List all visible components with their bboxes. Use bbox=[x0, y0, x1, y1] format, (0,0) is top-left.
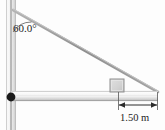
angle-label: 60.0° bbox=[13, 22, 37, 34]
horizontal-beam bbox=[11, 91, 158, 101]
vertical-wall-pole bbox=[6, 0, 16, 130]
block-on-beam bbox=[110, 79, 124, 92]
length-label: 1.50 m bbox=[120, 112, 149, 123]
diagram-svg bbox=[0, 0, 165, 130]
hinge-pivot bbox=[7, 93, 16, 102]
physics-diagram-canvas: 60.0° 1.50 m bbox=[0, 0, 165, 130]
